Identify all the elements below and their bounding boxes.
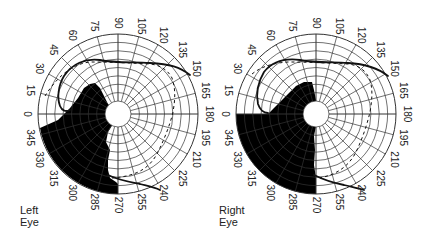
left-angle-label-75: 75 <box>89 21 100 33</box>
right-angle-label-255: 255 <box>334 194 345 211</box>
right-angle-label-180: 180 <box>402 106 413 123</box>
left-angle-label-300: 300 <box>67 184 78 201</box>
right-polar-grid <box>236 34 396 194</box>
left-angle-label-165: 165 <box>200 82 211 99</box>
left-angle-label-180: 180 <box>204 106 215 123</box>
left-eye-label-line1: Left <box>20 204 39 216</box>
right-angle-label-210: 210 <box>389 151 400 168</box>
right-angle-label-105: 105 <box>334 18 345 35</box>
left-angle-label-150: 150 <box>191 60 202 77</box>
right-angle-label-270: 270 <box>311 197 322 214</box>
left-angle-label-345: 345 <box>25 129 36 146</box>
left-angle-label-45: 45 <box>48 44 59 56</box>
right-angle-label-90: 90 <box>311 17 322 29</box>
right-angle-label-225: 225 <box>375 170 386 187</box>
right-angle-label-240: 240 <box>356 184 367 201</box>
left-angle-label-60: 60 <box>67 30 78 42</box>
right-angle-label-60: 60 <box>265 30 276 42</box>
right-eye-label-line1: Right <box>219 204 245 216</box>
right-angle-label-30: 30 <box>232 63 243 75</box>
visual-field-figure: 0153045607590105120135150165180195210225… <box>0 0 430 241</box>
left-angle-label-330: 330 <box>34 151 45 168</box>
left-angle-label-15: 15 <box>25 85 36 97</box>
left-angle-label-315: 315 <box>48 170 59 187</box>
right-angle-label-285: 285 <box>287 194 298 211</box>
left-angle-label-30: 30 <box>34 63 45 75</box>
left-angle-label-210: 210 <box>191 151 202 168</box>
left-eye-chart: 0153045607590105120135150165180195210225… <box>22 17 215 213</box>
right-angle-label-75: 75 <box>287 21 298 33</box>
left-angle-label-120: 120 <box>158 27 169 44</box>
left-angle-label-225: 225 <box>177 170 188 187</box>
left-angle-label-90: 90 <box>113 17 124 29</box>
left-angle-label-285: 285 <box>89 194 100 211</box>
left-angle-label-240: 240 <box>158 184 169 201</box>
right-angle-label-0: 0 <box>220 111 231 117</box>
left-angle-label-0: 0 <box>22 111 33 117</box>
left-angle-label-105: 105 <box>136 18 147 35</box>
right-angle-label-345: 345 <box>223 129 234 146</box>
right-angle-label-15: 15 <box>223 85 234 97</box>
left-eye-label-line2: Eye <box>20 216 39 228</box>
left-angle-label-255: 255 <box>136 194 147 211</box>
left-polar-grid <box>38 34 198 194</box>
left-angle-label-135: 135 <box>177 41 188 58</box>
right-angle-label-300: 300 <box>265 184 276 201</box>
left-eye-label: Left Eye <box>20 204 39 228</box>
left-angle-label-195: 195 <box>200 129 211 146</box>
right-angle-label-195: 195 <box>398 129 409 146</box>
right-angle-label-330: 330 <box>232 151 243 168</box>
right-eye-label: Right Eye <box>219 204 245 228</box>
right-eye-chart: 0153045607590105120135150165180195210225… <box>220 17 413 213</box>
right-angle-label-120: 120 <box>356 27 367 44</box>
right-angle-label-315: 315 <box>246 170 257 187</box>
left-angle-label-270: 270 <box>113 197 124 214</box>
right-angle-label-150: 150 <box>389 60 400 77</box>
right-angle-label-135: 135 <box>375 41 386 58</box>
right-angle-label-45: 45 <box>246 44 257 56</box>
right-eye-label-line2: Eye <box>219 216 245 228</box>
right-angle-label-165: 165 <box>398 82 409 99</box>
